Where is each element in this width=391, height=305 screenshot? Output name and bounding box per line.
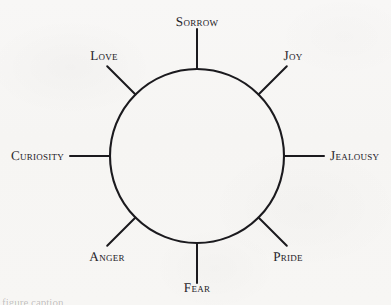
spoke-line-joy [259, 66, 287, 94]
spoke-line-love [107, 66, 135, 94]
wheel-label-anger: Anger [89, 250, 124, 263]
wheel-label-jealousy: Jealousy [330, 149, 379, 162]
wheel-label-love: Love [90, 49, 118, 62]
spoke-line-group [70, 29, 324, 283]
wheel-circle [110, 69, 284, 243]
spoke-line-pride [259, 218, 287, 246]
wheel-label-curiosity: Curiosity [11, 149, 64, 162]
wheel-label-sorrow: Sorrow [176, 15, 218, 28]
wheel-label-joy: Joy [284, 49, 303, 62]
spoke-line-anger [107, 218, 135, 246]
wheel-label-pride: Pride [273, 250, 303, 263]
wheel-label-fear: Fear [184, 281, 210, 294]
